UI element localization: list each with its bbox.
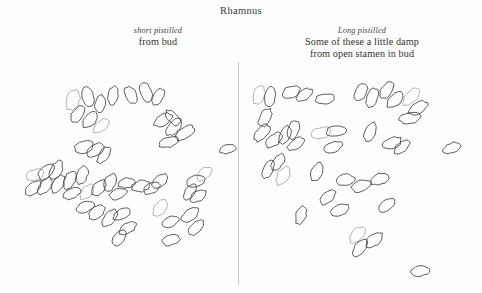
pollen-grain bbox=[151, 110, 175, 130]
pollen-grain bbox=[363, 87, 380, 110]
pollen-grain bbox=[68, 103, 88, 125]
pollen-grain bbox=[256, 106, 275, 129]
pollen-grain bbox=[93, 93, 107, 113]
pollen-grain bbox=[383, 89, 406, 111]
pollen-grain bbox=[63, 88, 82, 113]
pollen-grain bbox=[263, 130, 285, 151]
pollen-grain bbox=[405, 98, 430, 118]
pollen-grain bbox=[351, 82, 370, 104]
pollen-grain bbox=[317, 186, 338, 207]
pollen-grain bbox=[391, 137, 412, 157]
right-pollen-grain-group bbox=[251, 79, 463, 277]
pollen-grain bbox=[84, 141, 106, 160]
pollen-grain bbox=[149, 171, 170, 191]
pollen-grain bbox=[293, 204, 310, 226]
pollen-grain bbox=[91, 116, 112, 136]
pollen-grain bbox=[361, 120, 380, 144]
pollen-grain bbox=[322, 139, 344, 155]
pollen-grain bbox=[160, 214, 180, 230]
pollen-grain bbox=[272, 164, 293, 189]
pollen-grain bbox=[410, 265, 430, 278]
pollen-grain bbox=[116, 218, 138, 238]
pollen-grain bbox=[186, 217, 207, 238]
pollen-grain bbox=[150, 196, 171, 219]
pollen-grain bbox=[110, 205, 132, 223]
pollen-grain bbox=[99, 207, 121, 230]
pollen-grain bbox=[107, 85, 120, 106]
pollen-grain-sketch bbox=[0, 0, 482, 293]
pollen-grain bbox=[218, 143, 236, 155]
left-pollen-grain-group bbox=[22, 81, 237, 248]
pollen-grain bbox=[368, 170, 390, 187]
pollen-grain bbox=[441, 140, 462, 156]
pollen-grain bbox=[350, 177, 374, 194]
pollen-grain bbox=[398, 111, 423, 125]
pollen-grain bbox=[187, 186, 209, 205]
pollen-grain bbox=[34, 175, 55, 198]
pollen-grain bbox=[60, 169, 78, 192]
pollen-grain bbox=[268, 152, 287, 174]
pollen-grain bbox=[74, 199, 96, 216]
pollen-grain bbox=[329, 201, 351, 218]
notebook-page: Rhamnus short pistilled from bud Long pi… bbox=[0, 0, 482, 293]
pollen-grain bbox=[157, 135, 179, 150]
pollen-grain bbox=[263, 86, 278, 108]
pollen-grain bbox=[122, 84, 140, 106]
pollen-grain bbox=[251, 122, 272, 144]
pollen-grain bbox=[80, 86, 95, 108]
pollen-grain bbox=[73, 139, 94, 155]
pollen-grain bbox=[325, 124, 347, 138]
pollen-grain bbox=[276, 124, 294, 146]
pollen-grain bbox=[85, 202, 107, 223]
pollen-grain bbox=[61, 185, 82, 203]
pollen-grain bbox=[377, 79, 397, 101]
pollen-grain bbox=[161, 232, 182, 247]
pollen-grain bbox=[89, 176, 110, 199]
pollen-grain bbox=[308, 160, 326, 183]
pollen-grain bbox=[376, 195, 397, 214]
pollen-grain bbox=[314, 93, 335, 106]
pollen-grain bbox=[163, 115, 185, 139]
pollen-grain bbox=[285, 119, 302, 141]
pollen-grain bbox=[117, 176, 136, 189]
pollen-grain bbox=[74, 165, 91, 187]
pollen-grain bbox=[179, 204, 202, 226]
